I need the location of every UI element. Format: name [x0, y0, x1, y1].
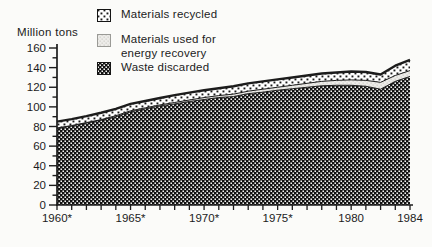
energy-recovery-pattern-swatch-icon [97, 34, 111, 47]
msw-stacked-area-figure: 0204060801001201401601960*1965*1970*1975… [0, 0, 432, 247]
legend-label-waste-discarded: Waste discarded [121, 61, 209, 75]
y-tick-label: 120 [27, 81, 46, 93]
legend-item-waste-discarded: Waste discarded [97, 61, 209, 75]
y-tick-label: 0 [40, 199, 46, 211]
legend-item-materials-recycled: Materials recycled [97, 8, 217, 22]
x-tick-label: 1975* [263, 212, 294, 224]
legend-label-energy-recovery-line1: Materials used for [121, 33, 216, 47]
y-tick-label: 80 [33, 121, 46, 133]
legend-item-energy-recovery: Materials used for energy recovery [97, 33, 216, 60]
legend-label-energy-recovery: Materials used for energy recovery [121, 33, 216, 60]
x-tick-label: 1984 [397, 212, 423, 224]
legend-label-materials-recycled: Materials recycled [121, 8, 217, 22]
waste-discarded-pattern-swatch-icon [97, 62, 111, 75]
x-tick-label: 1965* [116, 212, 147, 224]
y-tick-label: 40 [33, 160, 46, 172]
y-tick-label: 160 [27, 42, 46, 54]
y-tick-label: 140 [27, 62, 46, 74]
recycled-pattern-swatch-icon [97, 9, 111, 22]
y-tick-label: 60 [33, 140, 46, 152]
y-axis-title: Million tons [17, 26, 78, 38]
x-tick-label: 1960* [42, 212, 73, 224]
y-tick-label: 100 [27, 101, 46, 113]
x-tick-label: 1970* [189, 212, 220, 224]
legend-label-energy-recovery-line2: energy recovery [121, 47, 216, 61]
y-tick-label: 20 [33, 179, 46, 191]
x-tick-label: 1980 [338, 212, 364, 224]
